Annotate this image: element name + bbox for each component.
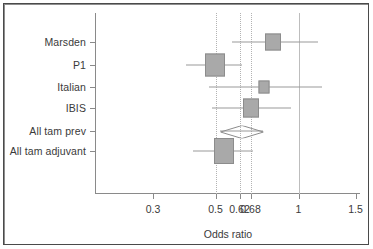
x-axis-tick	[240, 194, 241, 199]
plot-area: 0.30.50.620.6811.5MarsdenP1ItalianIBISAl…	[0, 0, 373, 249]
effect-estimate-box	[205, 53, 225, 76]
dotted-reference-line-0-62	[240, 13, 241, 194]
study-label-ibis: IBIS	[66, 102, 86, 114]
study-label-italian: Italian	[57, 81, 86, 93]
x-axis-tick-label: 0.5	[208, 203, 223, 215]
study-label-p1: P1	[73, 59, 86, 71]
x-axis-tick	[251, 194, 252, 199]
x-axis-tick-label: 0.3	[146, 203, 161, 215]
y-axis-tick	[90, 108, 95, 109]
effect-estimate-box	[265, 34, 281, 51]
y-axis-tick	[90, 87, 95, 88]
effect-estimate-box	[243, 99, 259, 118]
dotted-reference-line-0-5	[216, 13, 217, 194]
y-axis-tick	[90, 151, 95, 152]
x-axis-tick-label: 1.5	[348, 203, 363, 215]
study-label-all-tam-adjuvant: All tam adjuvant	[10, 145, 86, 157]
x-axis-tick	[216, 194, 217, 199]
y-axis-tick	[90, 131, 95, 132]
forest-plot-figure: 0.30.50.620.6811.5MarsdenP1ItalianIBISAl…	[0, 0, 373, 249]
x-axis-tick-label: 1	[296, 203, 302, 215]
y-axis-line	[95, 13, 96, 194]
x-axis-tick	[356, 194, 357, 199]
reference-line-null-effect	[299, 13, 300, 194]
x-axis-tick-label: 0.68	[240, 203, 260, 215]
x-axis-tick	[153, 194, 154, 199]
x-axis-tick	[299, 194, 300, 199]
effect-estimate-box	[259, 80, 270, 93]
study-label-all-tam-prev: All tam prev	[29, 125, 86, 137]
summary-effect-diamond	[220, 124, 263, 137]
x-axis-line	[95, 193, 360, 194]
effect-estimate-box	[214, 138, 234, 164]
study-label-marsden: Marsden	[44, 36, 86, 48]
y-axis-tick	[90, 65, 95, 66]
y-axis-tick	[90, 42, 95, 43]
x-axis-title: Odds ratio	[204, 228, 252, 240]
